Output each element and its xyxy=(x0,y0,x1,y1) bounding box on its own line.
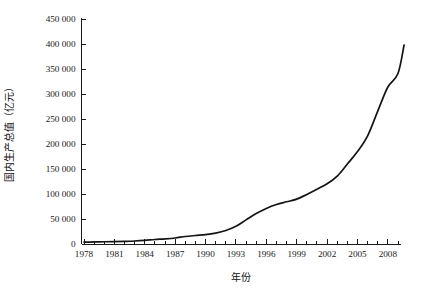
gdp-line-chart: 050 000100 000150 000200 000250 000300 0… xyxy=(0,0,421,289)
x-tick-label: 2008 xyxy=(379,249,398,259)
y-tick-label: 350 000 xyxy=(46,64,76,74)
y-tick-label: 250 000 xyxy=(46,114,76,124)
y-tick-label: 300 000 xyxy=(46,89,76,99)
x-tick-label: 1990 xyxy=(196,249,215,259)
x-tick-label: 1984 xyxy=(136,249,155,259)
y-tick-label: 450 000 xyxy=(46,14,76,24)
x-tick-label: 2005 xyxy=(348,249,367,259)
y-tick-label: 100 000 xyxy=(46,189,76,199)
x-tick-label: 1978 xyxy=(75,249,94,259)
x-tick-label: 1999 xyxy=(288,249,307,259)
x-tick-label: 1981 xyxy=(105,249,124,259)
y-tick-label: 150 000 xyxy=(46,164,76,174)
y-tick-label: 0 xyxy=(71,239,76,249)
y-axis-title: 国内生产总值（亿元） xyxy=(3,82,15,182)
chart-canvas: 050 000100 000150 000200 000250 000300 0… xyxy=(0,0,421,289)
x-axis-title: 年份 xyxy=(231,271,251,283)
y-tick-label: 200 000 xyxy=(46,139,76,149)
x-tick-label: 1993 xyxy=(227,249,246,259)
x-tick-label: 2002 xyxy=(318,249,337,259)
x-tick-label: 1987 xyxy=(166,249,185,259)
x-tick-label: 1996 xyxy=(257,249,276,259)
y-tick-label: 400 000 xyxy=(46,39,76,49)
y-tick-label: 50 000 xyxy=(50,214,76,224)
